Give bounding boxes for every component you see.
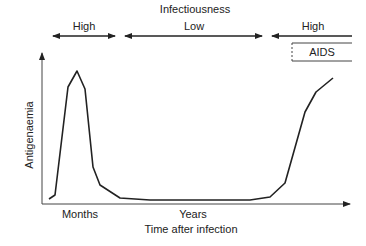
aids-label: AIDS [309,46,335,58]
x-tick-years: Years [179,208,207,220]
antigenaemia-diagram: Infectiousness High Low High AIDS Antige… [0,0,366,246]
antigenaemia-curve [49,71,333,200]
x-tick-months: Months [62,208,99,220]
y-axis-label: Antigenaemia [23,100,35,168]
phase-label-high-late: High [302,20,325,32]
phase-label-low: Low [184,20,204,32]
diagram-title: Infectiousness [160,3,231,15]
x-axis-label: Time after infection [144,223,237,235]
phase-label-high-early: High [73,20,96,32]
